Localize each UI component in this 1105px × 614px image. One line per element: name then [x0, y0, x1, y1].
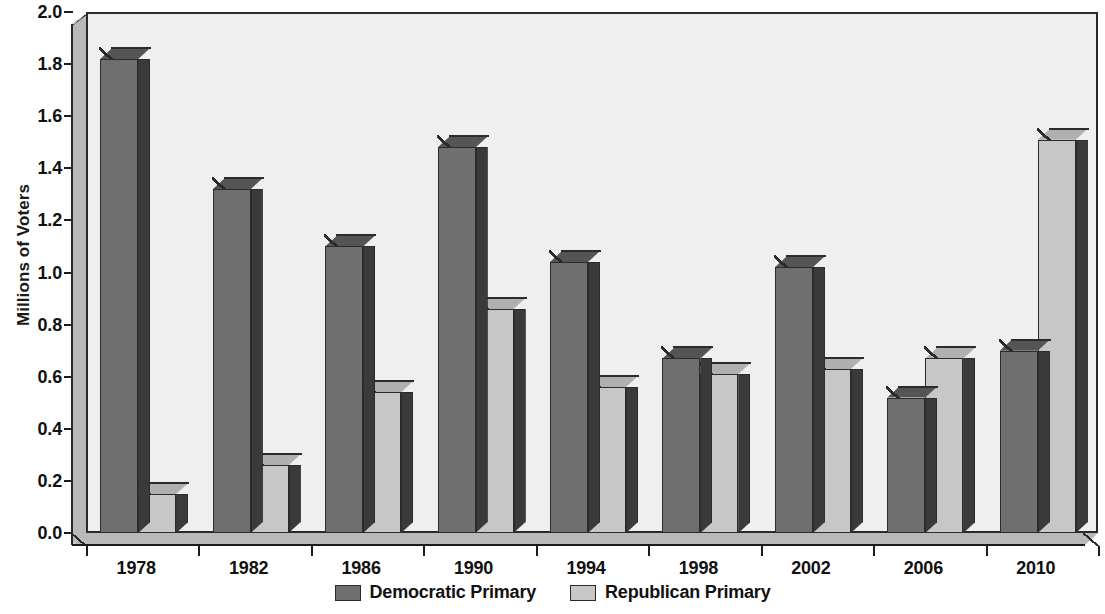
- bar-side-face: [401, 392, 413, 533]
- bar-top-back-edge: [1011, 339, 1051, 341]
- bars-layer: [0, 0, 1105, 614]
- bar-1982-democratic: [213, 189, 251, 533]
- bar-side-face: [1076, 140, 1088, 533]
- bar-front-face: [325, 246, 363, 533]
- legend-label: Democratic Primary: [370, 582, 537, 603]
- x-axis-tick-label-2010: 2010: [996, 558, 1076, 579]
- bar-front-face: [662, 358, 700, 533]
- bar-front-face: [775, 267, 813, 533]
- bar-top-back-edge: [561, 250, 601, 252]
- bar-top-back-edge: [711, 362, 751, 364]
- bar-1978-democratic: [100, 59, 138, 533]
- x-axis-tick-label-1998: 1998: [658, 558, 738, 579]
- bar-side-face: [925, 398, 937, 533]
- bar-chart: Millions of Voters 0.00.20.40.60.81.01.2…: [0, 0, 1105, 614]
- bar-front-face: [213, 189, 251, 533]
- bar-1998-democratic: [662, 358, 700, 533]
- bar-side-face: [176, 494, 188, 533]
- bar-top-back-edge: [224, 177, 264, 179]
- bar-front-face: [100, 59, 138, 533]
- bar-side-face: [963, 358, 975, 533]
- bar-side-face: [363, 246, 375, 533]
- x-axis-tick-mark: [986, 546, 988, 556]
- bar-1994-democratic: [550, 262, 588, 533]
- x-axis-tick-label-1982: 1982: [209, 558, 289, 579]
- bar-side-face: [626, 387, 638, 533]
- x-axis-tick-label-1990: 1990: [434, 558, 514, 579]
- legend-swatch-icon: [570, 585, 596, 601]
- bar-top-back-edge: [673, 346, 713, 348]
- x-axis-tick-label-2002: 2002: [771, 558, 851, 579]
- x-axis-tick-mark: [873, 546, 875, 556]
- bar-top-back-edge: [336, 234, 376, 236]
- bar-1990-democratic: [438, 147, 476, 533]
- bar-top-back-edge: [374, 380, 414, 382]
- x-axis-tick-label-2006: 2006: [883, 558, 963, 579]
- bar-top-back-edge: [262, 453, 302, 455]
- x-axis-tick-label-1978: 1978: [96, 558, 176, 579]
- legend-swatch-icon: [335, 585, 361, 601]
- x-axis-tick-mark: [86, 546, 88, 556]
- x-axis-tick-mark: [1098, 546, 1100, 556]
- bar-top-back-edge: [1049, 128, 1089, 130]
- bar-top-back-edge: [824, 357, 864, 359]
- bar-side-face: [289, 465, 301, 533]
- bar-side-face: [700, 358, 712, 533]
- bar-top-back-edge: [449, 135, 489, 137]
- bar-2010-democratic: [1000, 351, 1038, 533]
- bar-side-face: [514, 309, 526, 533]
- x-axis-tick-mark: [761, 546, 763, 556]
- bar-side-face: [251, 189, 263, 533]
- bar-side-face: [738, 374, 750, 533]
- x-axis-tick-mark: [423, 546, 425, 556]
- bar-1986-democratic: [325, 246, 363, 533]
- legend-item-republican: Republican Primary: [570, 582, 770, 603]
- bar-top-back-edge: [149, 482, 189, 484]
- bar-2002-democratic: [775, 267, 813, 533]
- chart-legend: Democratic PrimaryRepublican Primary: [0, 582, 1105, 603]
- bar-side-face: [813, 267, 825, 533]
- bar-top-back-edge: [936, 346, 976, 348]
- bar-front-face: [550, 262, 588, 533]
- x-axis-tick-label-1994: 1994: [546, 558, 626, 579]
- bar-side-face: [851, 369, 863, 533]
- bar-side-face: [138, 59, 150, 533]
- bar-front-face: [438, 147, 476, 533]
- bar-top-back-edge: [898, 386, 938, 388]
- bar-front-face: [1000, 351, 1038, 533]
- x-axis-tick-label-1986: 1986: [321, 558, 401, 579]
- bar-front-face: [887, 398, 925, 533]
- bar-side-face: [1038, 351, 1050, 533]
- legend-label: Republican Primary: [605, 582, 770, 603]
- x-axis-tick-mark: [648, 546, 650, 556]
- bar-top-back-edge: [111, 47, 151, 49]
- bar-top-back-edge: [487, 297, 527, 299]
- bar-side-face: [476, 147, 488, 533]
- legend-item-democratic: Democratic Primary: [335, 582, 537, 603]
- bar-top-back-edge: [786, 255, 826, 257]
- x-axis-line: [72, 544, 1085, 546]
- x-axis-tick-mark: [198, 546, 200, 556]
- bar-2006-democratic: [887, 398, 925, 533]
- bar-top-back-edge: [599, 375, 639, 377]
- x-axis-tick-mark: [311, 546, 313, 556]
- bar-side-face: [588, 262, 600, 533]
- x-axis-tick-mark: [536, 546, 538, 556]
